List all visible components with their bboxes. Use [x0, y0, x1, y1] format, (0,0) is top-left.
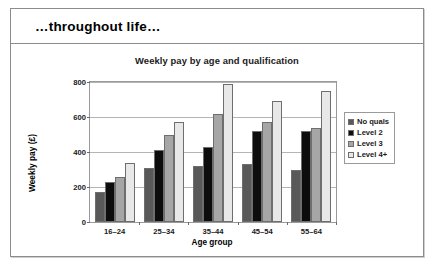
y-tick-label: 200 [73, 183, 86, 192]
legend-item: No quals [348, 116, 389, 127]
x-tick-label: 55–64 [301, 227, 322, 236]
bar [164, 135, 174, 223]
bar-group [90, 82, 139, 222]
bar-group [139, 82, 188, 222]
y-tick-label: 800 [73, 78, 86, 87]
bar [272, 101, 282, 222]
y-tick-label: 400 [73, 148, 86, 157]
bar [125, 163, 135, 223]
legend-label: Level 2 [357, 128, 383, 137]
bar-group [238, 82, 287, 222]
bar [203, 147, 213, 222]
x-tick-mark [336, 222, 337, 225]
chart-title: Weekly pay by age and qualification [11, 55, 423, 66]
x-tick-label: 16–24 [104, 227, 125, 236]
x-tick-label: 25–34 [153, 227, 174, 236]
x-tick-mark [139, 222, 140, 225]
legend-label: Level 4+ [357, 150, 387, 159]
legend-label: Level 3 [357, 139, 383, 148]
legend-label: No quals [357, 117, 389, 126]
bar [193, 166, 203, 222]
plot-area: 020040060080016–2425–3435–4445–5455–64 [89, 81, 337, 223]
y-tick-label: 0 [82, 218, 86, 227]
bar [105, 182, 115, 222]
bar [262, 122, 272, 222]
y-tick-label: 600 [73, 113, 86, 122]
bar [144, 168, 154, 222]
x-tick-mark [238, 222, 239, 225]
bar [311, 128, 321, 223]
legend-item: Level 2 [348, 127, 389, 138]
bar [213, 114, 223, 223]
bar-group [287, 82, 336, 222]
slide-frame: …throughout life… Weekly pay by age and … [10, 8, 424, 257]
slide-header-title: …throughout life… [11, 19, 161, 34]
bar [291, 170, 301, 223]
bar [154, 150, 164, 222]
bar [115, 177, 125, 223]
legend-swatch [348, 119, 354, 125]
legend-swatch [348, 141, 354, 147]
bar [252, 131, 262, 222]
x-tick-mark [287, 222, 288, 225]
y-axis-title: Weekly pay (£) [27, 134, 37, 192]
bar [223, 84, 233, 222]
legend-item: Level 4+ [348, 149, 389, 160]
bar [242, 164, 252, 222]
bar [321, 91, 331, 222]
legend-swatch [348, 152, 354, 158]
bar [301, 131, 311, 222]
x-tick-mark [188, 222, 189, 225]
x-tick-label: 35–44 [202, 227, 223, 236]
legend-item: Level 3 [348, 138, 389, 149]
legend-swatch [348, 130, 354, 136]
bar [95, 192, 105, 222]
chart-figure: Weekly pay by age and qualification Week… [11, 44, 423, 257]
bar [174, 122, 184, 222]
y-tick-mark [87, 222, 90, 223]
bar-group [188, 82, 237, 222]
x-tick-label: 45–54 [252, 227, 273, 236]
slide-header: …throughout life… [11, 9, 423, 44]
chart-legend: No qualsLevel 2Level 3Level 4+ [344, 112, 395, 164]
plot-inner: 020040060080016–2425–3435–4445–5455–64 [90, 82, 336, 222]
x-axis-title: Age group [89, 238, 335, 247]
